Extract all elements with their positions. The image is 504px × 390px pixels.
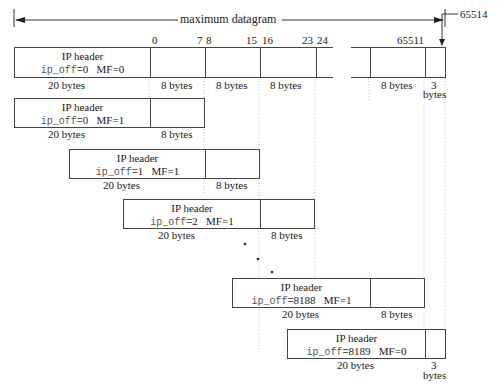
data-bytes: 8 bytes — [216, 79, 247, 91]
fragment-3: IP header ip_off=2 MF=1 — [123, 199, 315, 229]
offset-0: 0 — [152, 34, 158, 46]
offset-24: 24 — [317, 34, 328, 46]
offset-8: 8 — [206, 34, 212, 46]
original-datagram: IP header ip_off=0 MF=0 — [14, 47, 446, 78]
hdr-bytes: 20 bytes — [48, 79, 85, 91]
offset-15: 15 — [246, 34, 257, 46]
ip-off-label: ip_off — [41, 65, 77, 76]
ip-header: IP header ip_off=0 MF=0 — [15, 50, 150, 77]
fragment-8189: IP header ip_off=8188 MF=1 — [232, 278, 425, 308]
data-bytes: 8 bytes — [381, 79, 412, 91]
data-bytes: 8 bytes — [270, 79, 301, 91]
data-bytes: 8 bytes — [161, 79, 192, 91]
offset-65511: 65511 — [397, 34, 424, 46]
offset-7: 7 — [197, 34, 203, 46]
fragment-2: IP header ip_off=1 MF=1 — [69, 149, 260, 179]
fragment-last: IP header ip_off=8189 MF=0 — [287, 329, 446, 359]
fragment-1: IP header ip_off=0 MF=1 — [14, 98, 205, 128]
offset-65514: 65514 — [460, 8, 488, 20]
diagram-title: maximum datagram — [180, 13, 276, 25]
offset-23: 23 — [302, 34, 313, 46]
offset-16: 16 — [262, 34, 273, 46]
